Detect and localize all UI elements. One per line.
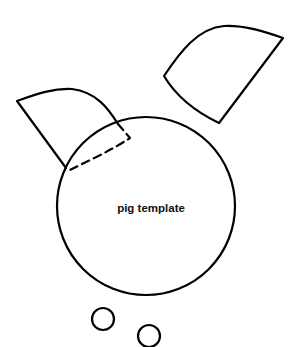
nostril-right-circle <box>138 325 160 347</box>
template-drawing <box>0 0 298 347</box>
template-title-label: pig template <box>2 202 298 214</box>
right-ear-outline <box>164 26 283 123</box>
pig-template-diagram: pig template <box>0 0 298 347</box>
nostril-left-circle <box>92 308 114 330</box>
